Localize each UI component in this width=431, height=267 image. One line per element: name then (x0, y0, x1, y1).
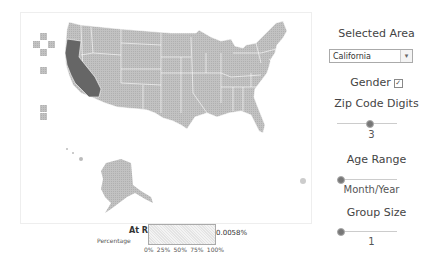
legend-tick: 100% (207, 246, 224, 253)
legend-subtitle: Percentage (97, 237, 131, 244)
legend-tick: 75% (190, 246, 203, 253)
area-select[interactable]: California ▾ (329, 49, 413, 63)
age-range-title: Age Range (322, 153, 431, 166)
gender-row: Gender✓ (322, 76, 431, 89)
zip-code-title: Zip Code Digits (322, 97, 431, 110)
territory-puerto-rico[interactable] (300, 178, 306, 184)
small-state-keys[interactable] (33, 33, 55, 120)
slider-thumb[interactable] (337, 176, 345, 184)
age-range-value: Month/Year (317, 184, 426, 195)
contiguous-us[interactable] (65, 21, 287, 133)
state-hawaii[interactable] (66, 148, 83, 161)
legend-tick: 0% (144, 246, 154, 253)
map-panel (20, 12, 312, 224)
selected-area-title: Selected Area (322, 27, 431, 40)
zip-code-value: 3 (317, 129, 426, 140)
gender-checkbox[interactable]: ✓ (394, 79, 403, 88)
slider-track (337, 179, 397, 180)
gender-label: Gender (350, 76, 391, 89)
legend-value: 0.0058% (216, 229, 247, 237)
legend-ticks: 0% 25% 50% 75% 100% (144, 246, 224, 253)
group-size-value: 1 (317, 236, 426, 247)
area-select-value: California (333, 52, 371, 61)
slider-thumb[interactable] (337, 228, 345, 236)
legend-tick: 50% (174, 246, 187, 253)
group-size-title: Group Size (322, 206, 431, 219)
legend-tick: 25% (157, 246, 170, 253)
us-map[interactable] (21, 13, 311, 223)
slider-thumb[interactable] (366, 120, 374, 128)
state-alaska[interactable] (101, 159, 153, 213)
slider-track (337, 231, 397, 232)
chevron-down-icon[interactable]: ▾ (400, 50, 412, 62)
zip-code-slider[interactable] (337, 119, 397, 129)
legend-gradient-bar (148, 224, 216, 245)
